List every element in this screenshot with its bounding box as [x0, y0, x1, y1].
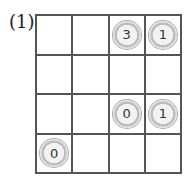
grid-cell	[36, 94, 72, 134]
grid-cell: 0	[36, 134, 72, 174]
grid-cell	[145, 134, 181, 174]
grid-cell	[72, 94, 108, 134]
grid-cell	[36, 55, 72, 95]
puzzle-grid: 31010	[35, 14, 182, 174]
grid-cell: 3	[109, 15, 145, 55]
grid-cell: 1	[145, 15, 181, 55]
problem-label: (1)	[9, 11, 35, 32]
grid-cell	[36, 15, 72, 55]
grid-cell	[72, 15, 108, 55]
grid-cell	[72, 55, 108, 95]
grid-cell: 1	[145, 94, 181, 134]
grid-cell	[72, 134, 108, 174]
coin-icon: 0	[40, 139, 68, 167]
grid-cell	[145, 55, 181, 95]
grid-cell	[109, 55, 145, 95]
coin-icon: 0	[113, 100, 141, 128]
grid-cell: 0	[109, 94, 145, 134]
coin-icon: 3	[113, 21, 141, 49]
grid-cell	[109, 134, 145, 174]
coin-icon: 1	[149, 100, 177, 128]
coin-icon: 1	[149, 21, 177, 49]
